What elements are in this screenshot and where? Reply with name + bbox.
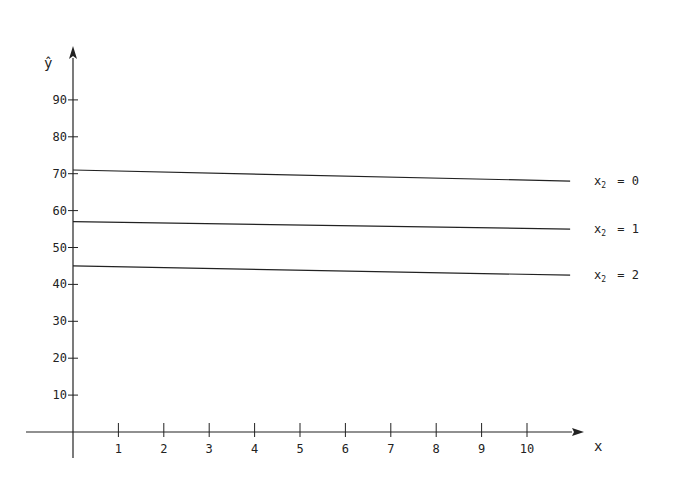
x-tick-label: 2 [160, 442, 167, 456]
series-line [73, 222, 570, 229]
chart: 102030405060708090 12345678910 x2 = 0x2 … [0, 0, 684, 485]
y-tick-label: 60 [53, 204, 67, 218]
y-tick-label: 30 [53, 314, 67, 328]
series-line [73, 266, 570, 275]
y-axis-arrow-icon [69, 46, 77, 59]
legend-label: x2 = 2 [594, 268, 639, 284]
x-axis-arrow-icon [572, 428, 584, 436]
x-tick-label: 8 [433, 442, 440, 456]
x-tick-label: 10 [520, 442, 534, 456]
legend-label: x2 = 0 [594, 174, 639, 190]
y-tick-label: 10 [53, 388, 67, 402]
x-tick-label: 6 [342, 442, 349, 456]
x-tick-label: 3 [206, 442, 213, 456]
legend-label: x2 = 1 [594, 222, 639, 238]
series-lines [73, 170, 570, 275]
x-tick-label: 4 [251, 442, 258, 456]
x-axis-title: x [594, 438, 602, 454]
x-tick-label: 7 [387, 442, 394, 456]
y-tick-label: 80 [53, 130, 67, 144]
x-tick-label: 1 [115, 442, 122, 456]
x-tick-label: 5 [296, 442, 303, 456]
axes [26, 46, 584, 458]
x-tick-label: 9 [478, 442, 485, 456]
y-tick-label: 50 [53, 241, 67, 255]
y-tick-label: 20 [53, 351, 67, 365]
x-axis-ticks: 12345678910 [115, 423, 534, 456]
y-tick-label: 70 [53, 167, 67, 181]
y-axis-ticks: 102030405060708090 [53, 93, 78, 402]
y-tick-label: 90 [53, 93, 67, 107]
y-tick-label: 40 [53, 277, 67, 291]
legend-labels: x2 = 0x2 = 1x2 = 2 [594, 174, 639, 284]
y-axis-title: ŷ [44, 55, 52, 71]
series-line [73, 170, 570, 181]
